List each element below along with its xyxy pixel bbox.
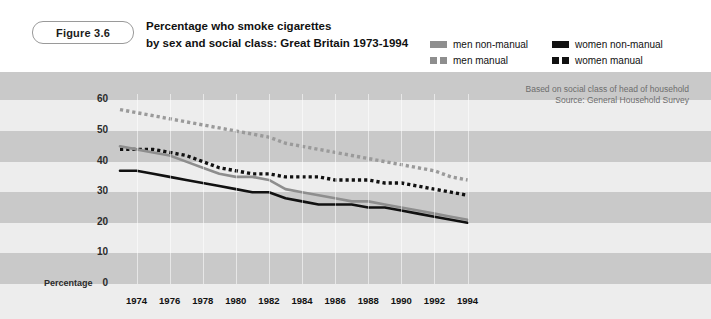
figure-number-text: Figure 3.6 bbox=[56, 27, 110, 39]
chart-gridline-vertical bbox=[434, 94, 435, 284]
legend-swatch-solid-gray-icon bbox=[430, 41, 447, 48]
legend-item-men-manual: men manual bbox=[430, 55, 552, 66]
x-axis-tick-label: 1994 bbox=[448, 295, 488, 306]
chart-gridline-vertical bbox=[137, 94, 138, 284]
legend-swatch-dashed-gray-icon bbox=[430, 57, 447, 64]
legend-label: women non-manual bbox=[575, 39, 663, 50]
legend-label: men non-manual bbox=[453, 39, 528, 50]
y-axis-title: Percentage bbox=[44, 278, 93, 288]
chart-gridline-vertical bbox=[170, 94, 171, 284]
chart-gridline-vertical bbox=[269, 94, 270, 284]
title-line-2: by sex and social class: Great Britain 1… bbox=[146, 35, 426, 52]
legend-label: women manual bbox=[575, 55, 643, 66]
legend-swatch-dashed-black-icon bbox=[552, 57, 569, 64]
y-axis-tick-label: 20 bbox=[82, 216, 108, 227]
legend-item-men-non-manual: men non-manual bbox=[430, 39, 552, 50]
chart-series-line bbox=[120, 110, 468, 180]
figure-page: Figure 3.6 Percentage who smoke cigarett… bbox=[0, 0, 711, 319]
chart-series-line bbox=[120, 171, 468, 223]
figure-header: Figure 3.6 Percentage who smoke cigarett… bbox=[0, 0, 711, 72]
y-axis-tick-label: 30 bbox=[82, 185, 108, 196]
y-axis-tick-label: 10 bbox=[82, 246, 108, 257]
chart-gridline-vertical bbox=[302, 94, 303, 284]
chart-gridline-vertical bbox=[335, 94, 336, 284]
chart-gridline-vertical bbox=[468, 94, 469, 284]
chart-gridline-vertical bbox=[203, 94, 204, 284]
legend-item-women-manual: women manual bbox=[552, 55, 706, 66]
chart-gridline-vertical bbox=[368, 94, 369, 284]
chart-gridline-vertical bbox=[401, 94, 402, 284]
chart-series-line bbox=[120, 146, 468, 219]
page-title: Percentage who smoke cigarettes by sex a… bbox=[146, 18, 426, 51]
chart-legend: men non-manual women non-manual men manu… bbox=[430, 36, 706, 68]
y-axis-tick-label: 60 bbox=[82, 93, 108, 104]
legend-item-women-non-manual: women non-manual bbox=[552, 39, 706, 50]
title-line-1: Percentage who smoke cigarettes bbox=[146, 18, 426, 35]
legend-label: men manual bbox=[453, 55, 508, 66]
y-axis-tick-label: 40 bbox=[82, 155, 108, 166]
y-axis-tick-label: 50 bbox=[82, 124, 108, 135]
chart-gridline-vertical bbox=[236, 94, 237, 284]
chart-panel: Based on social class of head of househo… bbox=[0, 72, 711, 319]
legend-swatch-solid-black-icon bbox=[552, 41, 569, 48]
figure-number-badge: Figure 3.6 bbox=[32, 21, 134, 44]
